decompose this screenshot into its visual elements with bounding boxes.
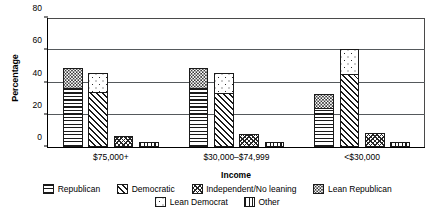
bar-group: $75,000+ [48, 18, 174, 147]
bar-other-bar [265, 142, 285, 147]
x-group-label: $30,000–$74,999 [203, 152, 269, 162]
bar-segment-independent-no-leaning [366, 134, 384, 147]
bar-democratic-stack [88, 73, 108, 147]
bar-segment-independent-no-leaning [115, 137, 133, 146]
x-group-label: $75,000+ [93, 152, 129, 162]
bar-other-bar [390, 142, 410, 147]
bar-democratic-stack [340, 49, 360, 147]
legend-swatch-fine-dots-icon [313, 184, 324, 194]
plot-area: 020406080 $75,000+$30,000–$74,999<$30,00… [47, 18, 425, 148]
legend-swatch-vertical-lines-icon [244, 197, 255, 207]
bar-segment-independent-no-leaning [240, 135, 258, 146]
bar-independent-bar [114, 136, 134, 147]
bar-group: <$30,000 [299, 18, 425, 147]
y-axis-title: Percentage [8, 4, 22, 152]
bar-segment-lean-republican [64, 69, 82, 89]
bar-segment-democratic [215, 94, 233, 146]
bar-republican-stack [63, 68, 83, 147]
y-tick-label: 60 [33, 35, 42, 45]
legend-label: Democratic [132, 184, 175, 194]
bar-segment-lean-republican [315, 95, 333, 109]
legend-label: Other [258, 197, 279, 207]
bar-segment-republican [64, 89, 82, 146]
bar-segment-democratic [341, 75, 359, 146]
legend-item: Republican [43, 184, 100, 194]
legend-item: Lean Democrat [155, 197, 228, 207]
legend-swatch-sparse-dots-icon [155, 197, 166, 207]
x-group-label: <$30,000 [344, 152, 380, 162]
legend-row-1: RepublicanDemocraticIndependent/No leani… [0, 184, 435, 194]
legend-item: Other [244, 197, 280, 207]
y-tick-label: 0 [37, 132, 42, 142]
legend-label: Independent/No leaning [206, 184, 296, 194]
x-axis-title: Income [47, 170, 425, 180]
bar-segment-lean-democrat [341, 50, 359, 75]
y-tick-label: 80 [33, 3, 42, 13]
bar-independent-bar [365, 133, 385, 148]
bar-group: $30,000–$74,999 [174, 18, 300, 147]
bar-segment-republican [315, 109, 333, 146]
bar-segment-republican [190, 89, 208, 146]
legend-swatch-diagonal-hatch-icon [117, 184, 128, 194]
chart-legend: RepublicanDemocraticIndependent/No leani… [0, 184, 435, 210]
bar-republican-stack [314, 94, 334, 147]
bar-segment-lean-democrat [89, 74, 107, 93]
legend-swatch-horizontal-lines-icon [43, 184, 54, 194]
bar-republican-stack [189, 68, 209, 147]
bar-segment-lean-democrat [215, 74, 233, 94]
legend-row-2: Lean DemocratOther [0, 197, 435, 207]
legend-label: Lean Democrat [170, 197, 228, 207]
bar-segment-other [266, 143, 284, 146]
bar-segment-lean-republican [190, 69, 208, 89]
y-tick-label: 20 [33, 100, 42, 110]
legend-swatch-crosshatch-icon [192, 184, 203, 194]
legend-label: Lean Republican [328, 184, 392, 194]
bar-other-bar [139, 142, 159, 147]
bar-democratic-stack [214, 73, 234, 147]
bar-segment-democratic [89, 93, 107, 146]
bar-chart: Percentage 020406080 $75,000+$30,000–$74… [0, 0, 435, 218]
legend-item: Democratic [117, 184, 174, 194]
bar-independent-bar [239, 134, 259, 147]
y-tick-label: 40 [33, 68, 42, 78]
legend-item: Lean Republican [313, 184, 391, 194]
legend-label: Republican [58, 184, 101, 194]
legend-item: Independent/No leaning [192, 184, 297, 194]
bar-segment-other [140, 143, 158, 146]
bar-segment-other [391, 143, 409, 146]
